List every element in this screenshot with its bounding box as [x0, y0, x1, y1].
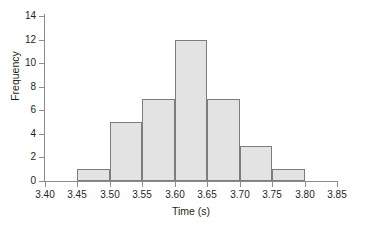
histogram-chart: 02468101214 3.403.453.503.553.603.653.70…: [0, 0, 367, 230]
y-axis-tick: [39, 40, 44, 41]
x-axis-tick-label: 3.80: [295, 190, 314, 200]
y-axis-tick-label: 10: [25, 58, 36, 68]
y-axis-tick: [39, 181, 44, 182]
histogram-bars: [45, 16, 337, 181]
histogram-bar: [272, 169, 304, 181]
x-axis-tick-label: 3.60: [165, 190, 184, 200]
x-axis-tick: [305, 182, 306, 187]
x-axis-tick: [175, 182, 176, 187]
x-axis-tick: [77, 182, 78, 187]
x-axis-tick: [337, 182, 338, 187]
x-axis-tick-label: 3.45: [67, 190, 86, 200]
x-axis-tick: [45, 182, 46, 187]
y-axis-tick-label: 6: [30, 105, 36, 115]
histogram-bar: [175, 40, 207, 181]
y-axis-tick: [39, 16, 44, 17]
histogram-bar: [110, 122, 142, 181]
x-axis-tick-label: 3.65: [197, 190, 216, 200]
x-axis-tick: [240, 182, 241, 187]
histogram-bar: [240, 146, 272, 181]
y-axis-tick: [39, 134, 44, 135]
histogram-bar: [142, 99, 174, 182]
x-axis-tick: [142, 182, 143, 187]
x-axis-tick-label: 3.75: [262, 190, 281, 200]
y-axis-tick: [39, 110, 44, 111]
x-axis-line: [44, 181, 338, 182]
x-axis-tick-label: 3.55: [132, 190, 151, 200]
y-axis-tick-label: 12: [25, 35, 36, 45]
y-axis-tick: [39, 63, 44, 64]
x-axis-tick: [272, 182, 273, 187]
y-axis-tick-label: 2: [30, 152, 36, 162]
y-axis-tick-label: 14: [25, 11, 36, 21]
y-axis-tick-label: 0: [30, 176, 36, 186]
x-axis-tick-label: 3.70: [230, 190, 249, 200]
y-axis-tick: [39, 157, 44, 158]
y-axis-tick-label: 4: [30, 129, 36, 139]
histogram-bar: [207, 99, 239, 182]
histogram-bar: [77, 169, 109, 181]
x-axis-tick-label: 3.85: [327, 190, 346, 200]
x-axis-label: Time (s): [45, 205, 337, 217]
y-axis-tick: [39, 87, 44, 88]
x-axis-tick: [207, 182, 208, 187]
x-axis-tick-label: 3.50: [100, 190, 119, 200]
y-axis-label: Frequency: [9, 26, 21, 126]
x-axis-tick: [110, 182, 111, 187]
x-axis-tick-label: 3.40: [35, 190, 54, 200]
y-axis-tick-label: 8: [30, 82, 36, 92]
